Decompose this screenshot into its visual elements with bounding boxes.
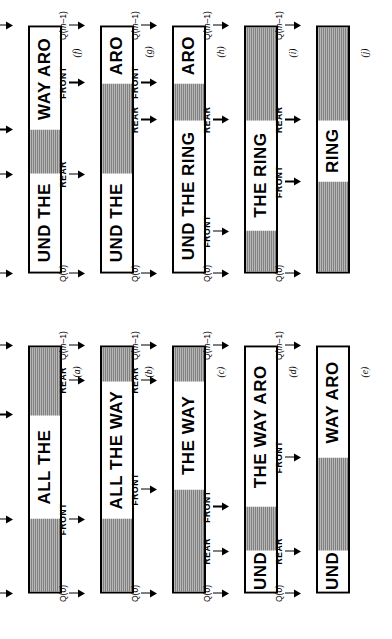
marker-arrow-rear-d [222, 547, 229, 555]
queue-panel-b: Q(0)FRONTREARQ(m–1)ALL THE WAY(b) [100, 319, 152, 639]
queue-segment-i-empty-2 [246, 27, 276, 120]
marker-arrow-qm1-h [150, 21, 157, 29]
marker-label-front-b: FRONT [58, 502, 68, 534]
queue-segment-text-i-1: THE RING [251, 132, 271, 217]
queue-panel-f: Q(0)REARFRONTQ(m–1)UND THEWAY ARO(f) [28, 0, 80, 319]
marker-stem-rear-j [285, 118, 294, 120]
queue-segment-text-b-1: ALL THE WAY [107, 390, 127, 509]
queue-segment-g-occupied-0: UND THE [102, 173, 132, 271]
marker-stem-qm1-i [213, 24, 222, 26]
queue-bar-a: ALL THE [28, 345, 62, 593]
queue-segment-c-occupied-1: THE WAY [174, 381, 204, 488]
marker-stem-qm1-c [141, 344, 150, 346]
marker-label-front-h: FRONT [130, 66, 140, 98]
marker-arrow-front-g [78, 78, 85, 86]
marker-label-rear-e: REAR [274, 538, 284, 565]
marker-arrow-qm1-i [222, 21, 229, 29]
queue-segment-h-occupied-0: UND THE RING [174, 120, 204, 271]
marker-arrow-rear-f [6, 170, 13, 178]
queue-panel-e: Q(0)REARFRONTQ(m–1)UNDWAY ARO(e) [316, 319, 368, 639]
marker-label-q0-d: Q(0) [202, 585, 212, 602]
marker-arrow-q0-i [222, 269, 229, 277]
queue-panel-g: Q(0)REARFRONTQ(m–1)UND THEARO(g) [100, 0, 152, 319]
marker-stem-rear-d [213, 550, 222, 552]
marker-stem-q0-b [69, 592, 78, 594]
queue-bar-c: THE WAY [172, 345, 206, 593]
queue-bar-g: UND THEARO [100, 25, 134, 273]
marker-stem-rear-b [69, 379, 78, 381]
panel-label-f: (f) [72, 48, 82, 57]
marker-stem-front-j [285, 180, 294, 182]
marker-arrow-rear-c [150, 376, 157, 384]
queue-segment-text-e-2: WAY ARO [323, 361, 343, 443]
queue-segment-c-empty-2 [174, 347, 204, 381]
panel-label-g: (g) [144, 46, 154, 57]
marker-arrow-q0-d [222, 589, 229, 597]
marker-label-rear-i: REAR [202, 106, 212, 133]
marker-stem-q0-h [141, 272, 150, 274]
queue-segment-e-occupied-0: UND [318, 550, 348, 591]
marker-stem-rear-g [69, 173, 78, 175]
marker-arrow-rear-g [78, 170, 85, 178]
queue-segment-d-empty-1 [246, 506, 276, 550]
queue-bar-outline-f: UND THEWAY ARO [28, 25, 62, 273]
marker-stem-front-c [141, 488, 150, 490]
marker-stem-front-b [69, 518, 78, 520]
marker-label-rear-j: REAR [274, 106, 284, 133]
marker-arrow-front-c [150, 485, 157, 493]
marker-label-q0-j: Q(0) [274, 265, 284, 282]
queue-segment-d-occupied-0: UND [246, 550, 276, 591]
queue-segment-i-empty-0 [246, 230, 276, 271]
marker-label-qm1-g: Q(m–1) [58, 11, 68, 40]
queue-bar-outline-g: UND THEARO [100, 25, 134, 273]
queue-segment-text-g-0: UND THE [107, 183, 127, 262]
marker-arrow-q0-b [78, 589, 85, 597]
queue-segment-f-occupied-2: WAY ARO [30, 27, 60, 129]
marker-label-front-d: FRONT [202, 490, 212, 522]
panel-group-right: Q(0)REARFRONTQ(m–1)UND THEWAY ARO(f)Q(0)… [0, 0, 392, 319]
marker-arrow-front-h [150, 78, 157, 86]
marker-arrow-rear-h [150, 115, 157, 123]
marker-label-qm1-b: Q(m–1) [58, 331, 68, 360]
marker-arrow-q0-h [150, 269, 157, 277]
panel-group-left: Q(0)FRONTREARQ(m–1)ALL THE(a)Q(0)FRONTRE… [0, 319, 392, 639]
marker-label-rear-g: REAR [58, 161, 68, 188]
marker-arrow-front-f [6, 125, 13, 133]
marker-arrow-q0-e [294, 589, 301, 597]
marker-label-rear-b: REAR [58, 366, 68, 393]
marker-arrow-qm1-c [150, 341, 157, 349]
marker-arrow-rear-e [294, 547, 301, 555]
queue-segment-c-empty-0 [174, 489, 204, 591]
marker-label-rear-d: REAR [202, 538, 212, 565]
marker-arrow-front-a [6, 515, 13, 523]
queue-bar-outline-j: RING [316, 25, 350, 273]
queue-bar-j: RING [316, 25, 350, 273]
marker-stem-q0-g [69, 272, 78, 274]
marker-label-rear-h: REAR [130, 106, 140, 133]
queue-bar-h: UND THE RINGARO [172, 25, 206, 273]
queue-segment-b-occupied-1: ALL THE WAY [102, 381, 132, 518]
marker-stem-front-e [285, 456, 294, 458]
queue-segment-text-c-1: THE WAY [179, 395, 199, 474]
marker-label-qm1-i: Q(m–1) [202, 11, 212, 40]
marker-arrow-q0-f [6, 269, 13, 277]
queue-segment-j-empty-0 [318, 181, 348, 271]
panel-label-d: (d) [288, 366, 298, 377]
marker-label-qm1-d: Q(m–1) [202, 331, 212, 360]
queue-bar-e: UNDWAY ARO [316, 345, 350, 593]
marker-arrow-q0-j [294, 269, 301, 277]
queue-segment-a-occupied-1: ALL THE [30, 415, 60, 517]
queue-segment-text-e-0: UND [323, 551, 343, 589]
queue-segment-text-d-2: THE WAY ARO [251, 365, 271, 488]
queue-segment-text-f-2: WAY ARO [35, 37, 55, 119]
marker-label-qm1-h: Q(m–1) [130, 11, 140, 40]
marker-arrow-q0-c [150, 589, 157, 597]
marker-label-q0-e: Q(0) [274, 585, 284, 602]
marker-arrow-rear-b [78, 376, 85, 384]
marker-stem-q0-e [285, 592, 294, 594]
marker-arrow-rear-i [222, 115, 229, 123]
marker-stem-qm1-j [285, 24, 294, 26]
marker-arrow-qm1-a [6, 341, 13, 349]
marker-stem-qm1-e [285, 344, 294, 346]
marker-arrow-front-i [222, 227, 229, 235]
